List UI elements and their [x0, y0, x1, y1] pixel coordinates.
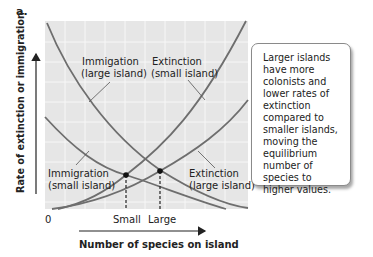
callout-box: Larger islands have more colonists and l… — [251, 43, 351, 186]
x-axis-title: Number of species on island — [79, 239, 239, 250]
y-axis-title: Rate of extinction or immigration — [15, 12, 26, 193]
equilibrium-point-large — [157, 168, 163, 174]
label-imm-small-1: Immigration — [48, 168, 109, 179]
label-ext-small-1: Extinction — [152, 56, 202, 67]
equilibrium-point-small — [123, 172, 129, 178]
label-ext-large-2: (large island) — [189, 180, 255, 191]
tick-small: Small — [113, 214, 141, 225]
tick-large: Large — [148, 214, 176, 225]
label-imm-small-2: (small island) — [48, 180, 115, 191]
label-ext-small-2: (small island) — [151, 68, 218, 79]
label-imm-large-1: Immigation — [82, 56, 139, 67]
label-imm-large-2: (large island) — [81, 68, 147, 79]
label-ext-large-1: Extinction — [189, 168, 239, 179]
tick-origin: 0 — [45, 214, 51, 225]
